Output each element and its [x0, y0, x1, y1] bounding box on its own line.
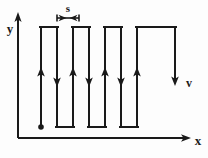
start-point-dot: [38, 124, 44, 130]
spacing-label: s: [66, 2, 71, 14]
scan-path-diagram: s y x v: [0, 0, 208, 158]
figure-container: s y x v: [0, 0, 208, 158]
y-axis-label: y: [7, 21, 14, 36]
velocity-label: v: [186, 76, 192, 90]
x-axis-label: x: [195, 133, 202, 148]
